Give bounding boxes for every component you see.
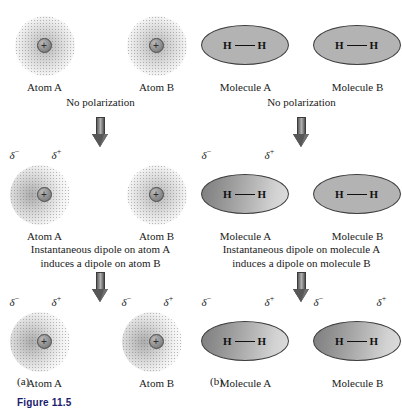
particle-label: Atom B xyxy=(139,377,174,390)
delta-positive-label: δ+ xyxy=(164,297,174,308)
arrow-head-shade xyxy=(293,289,305,302)
atom-a-unpolarized: + Atom A xyxy=(2,14,88,94)
statement-line: induces a dipole on molecule B xyxy=(201,257,402,271)
molecule-b-unpolarized: H H Molecule B xyxy=(315,163,401,243)
bond-line-icon xyxy=(347,45,367,46)
particle-label: Molecule A xyxy=(220,377,272,390)
panel-a-statement-1: No polarization xyxy=(0,96,201,110)
statement-line: Instantaneous dipole on atom A xyxy=(0,243,201,257)
particle-label: Molecule A xyxy=(220,81,272,94)
delta-positive-label: δ+ xyxy=(265,297,275,308)
panel-b-letter: (b) xyxy=(210,376,223,387)
nucleus-icon: + xyxy=(149,334,164,349)
arrow-head-shade xyxy=(92,289,104,302)
delta-negative-label: δ− xyxy=(202,150,212,161)
atom-a-polarized: δ− δ+ + Atom A xyxy=(2,163,88,243)
dipole-labels: δ− δ+ xyxy=(120,297,194,311)
panel-a-row-1: + Atom A + Atom B xyxy=(0,14,201,94)
nucleus-icon: + xyxy=(37,38,52,53)
dipole-labels: δ− δ+ xyxy=(8,150,82,164)
molecule-b-polarized: δ− δ+ H H Molecule B xyxy=(315,310,401,390)
panel-b-row-2: δ− δ+ H H Molecule A H xyxy=(201,163,402,243)
hydrogen-right: H xyxy=(370,39,379,51)
down-arrow-icon xyxy=(293,272,310,302)
hydrogen-bond-label: H H xyxy=(335,335,378,347)
hydrogen-bond-label: H H xyxy=(223,335,266,347)
arrow-shaft xyxy=(297,117,306,135)
molecule-diagram: δ− δ+ H H xyxy=(311,310,402,374)
dipole-labels: δ− δ+ xyxy=(8,297,82,311)
molecule-body: H H xyxy=(313,25,401,65)
delta-negative-label: δ− xyxy=(202,297,212,308)
atom-diagram: δ− δ+ + xyxy=(8,163,82,227)
molecule-body: H H xyxy=(201,174,289,214)
arrow-shaft xyxy=(96,272,105,290)
molecule-body: H H xyxy=(201,321,289,361)
hydrogen-right: H xyxy=(370,188,379,200)
panel-b-row-3: δ− δ+ H H Molecule A δ− δ+ xyxy=(201,310,402,390)
molecule-body: H H xyxy=(201,25,289,65)
molecule-b-unpolarized: H H Molecule B xyxy=(315,14,401,94)
hydrogen-left: H xyxy=(335,39,344,51)
delta-negative-label: δ− xyxy=(10,150,20,161)
statement-line: No polarization xyxy=(201,96,402,110)
panel-a-statement-2: Instantaneous dipole on atom A induces a… xyxy=(0,243,201,271)
delta-positive-label: δ+ xyxy=(377,297,387,308)
delta-positive-label: δ+ xyxy=(52,150,62,161)
bond-line-icon xyxy=(235,45,255,46)
molecule-diagram: δ− δ+ H H xyxy=(199,310,293,374)
particle-label: Molecule B xyxy=(332,81,384,94)
hydrogen-bond-label: H H xyxy=(335,188,378,200)
hydrogen-left: H xyxy=(223,188,232,200)
atom-diagram: + xyxy=(120,14,194,78)
delta-negative-label: δ− xyxy=(314,297,324,308)
hydrogen-left: H xyxy=(335,188,344,200)
nucleus-icon: + xyxy=(37,334,52,349)
delta-positive-label: δ+ xyxy=(265,150,275,161)
delta-negative-label: δ− xyxy=(122,297,132,308)
hydrogen-left: H xyxy=(223,39,232,51)
arrow-head-shade xyxy=(92,134,104,147)
delta-positive-label: δ+ xyxy=(52,297,62,308)
particle-label: Molecule B xyxy=(332,377,384,390)
panel-a-row-3: δ− δ+ + Atom A δ− δ+ + Atom B xyxy=(0,310,201,390)
down-arrow-icon xyxy=(92,117,109,147)
hydrogen-left: H xyxy=(335,335,344,347)
panel-a-atoms: + Atom A + Atom B No polarization δ− δ+ xyxy=(0,0,201,403)
nucleus-icon: + xyxy=(149,38,164,53)
bond-line-icon xyxy=(235,341,255,342)
bond-line-icon xyxy=(235,194,255,195)
down-arrow-icon xyxy=(92,272,109,302)
panel-a-letter: (a) xyxy=(17,376,29,387)
bond-line-icon xyxy=(347,341,367,342)
molecule-diagram: H H xyxy=(199,14,293,78)
molecule-a-polarized: δ− δ+ H H Molecule A xyxy=(203,163,289,243)
arrow-shaft xyxy=(297,272,306,290)
panel-b-molecules: H H Molecule A H H Molecule B xyxy=(201,0,402,403)
hydrogen-right: H xyxy=(258,39,267,51)
hydrogen-right: H xyxy=(258,335,267,347)
hydrogen-right: H xyxy=(370,335,379,347)
figure-caption: Figure 11.5 xyxy=(17,397,71,408)
molecule-body: H H xyxy=(313,174,401,214)
hydrogen-right: H xyxy=(258,188,267,200)
atom-diagram: δ− δ+ + xyxy=(8,310,82,374)
particle-label: Molecule B xyxy=(332,230,384,243)
atom-diagram: + xyxy=(8,14,82,78)
hydrogen-bond-label: H H xyxy=(335,39,378,51)
atom-b-unpolarized: + Atom B xyxy=(114,14,200,94)
particle-label: Atom A xyxy=(27,81,62,94)
atom-diagram: δ− δ+ + xyxy=(120,310,194,374)
atom-a-polarized: δ− δ+ + Atom A xyxy=(2,310,88,390)
nucleus-icon: + xyxy=(37,187,52,202)
statement-line: induces a dipole on atom B xyxy=(0,257,201,271)
panel-b-statement-1: No polarization xyxy=(201,96,402,110)
molecule-body: H H xyxy=(313,321,401,361)
particle-label: Atom A xyxy=(27,230,62,243)
particle-label: Atom B xyxy=(139,230,174,243)
molecule-diagram: H H xyxy=(311,14,402,78)
hydrogen-bond-label: H H xyxy=(223,39,266,51)
dipole-labels: δ− δ+ xyxy=(311,297,402,311)
down-arrow-icon xyxy=(293,117,310,147)
bond-line-icon xyxy=(347,194,367,195)
